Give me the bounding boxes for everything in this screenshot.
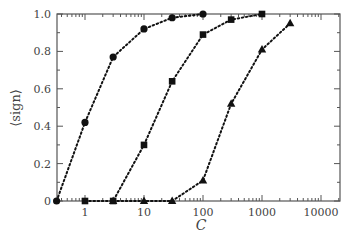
- circle-marker: [81, 119, 88, 126]
- y-tick-label: 0: [44, 195, 51, 208]
- x-tick-label: 1000: [248, 206, 276, 219]
- x-tick-label: 10: [137, 206, 151, 219]
- series-group: [53, 10, 294, 204]
- circle-marker: [199, 10, 206, 17]
- y-tick-label: 0.8: [34, 45, 52, 58]
- circle-marker: [53, 197, 60, 204]
- square-marker: [169, 78, 176, 85]
- x-tick-label: 1: [82, 206, 89, 219]
- x-tick-label: 10000: [304, 206, 339, 219]
- circle-marker: [169, 14, 176, 21]
- y-tick-label: 0.4: [34, 120, 52, 133]
- square-marker: [259, 11, 266, 18]
- y-axis-label: ⟨sign⟩: [8, 89, 23, 127]
- axes: 11010010001000000.20.40.60.81.0: [34, 8, 341, 219]
- circle-marker: [110, 53, 117, 60]
- square-marker: [82, 198, 89, 205]
- circle-marker: [140, 25, 147, 32]
- triangle-marker: [199, 176, 207, 184]
- x-axis-label: C: [196, 217, 207, 233]
- square-marker: [228, 16, 235, 23]
- y-tick-label: 1.0: [34, 8, 52, 21]
- series-line-circles: [57, 14, 203, 201]
- chart: 11010010001000000.20.40.60.81.0 C ⟨sign⟩: [0, 0, 351, 242]
- y-tick-label: 0.2: [34, 158, 52, 171]
- square-marker: [141, 142, 148, 149]
- triangle-marker: [286, 19, 294, 27]
- plot-frame: [57, 14, 340, 201]
- square-marker: [200, 31, 207, 38]
- y-tick-label: 0.6: [34, 83, 52, 96]
- series-line-squares: [85, 14, 262, 201]
